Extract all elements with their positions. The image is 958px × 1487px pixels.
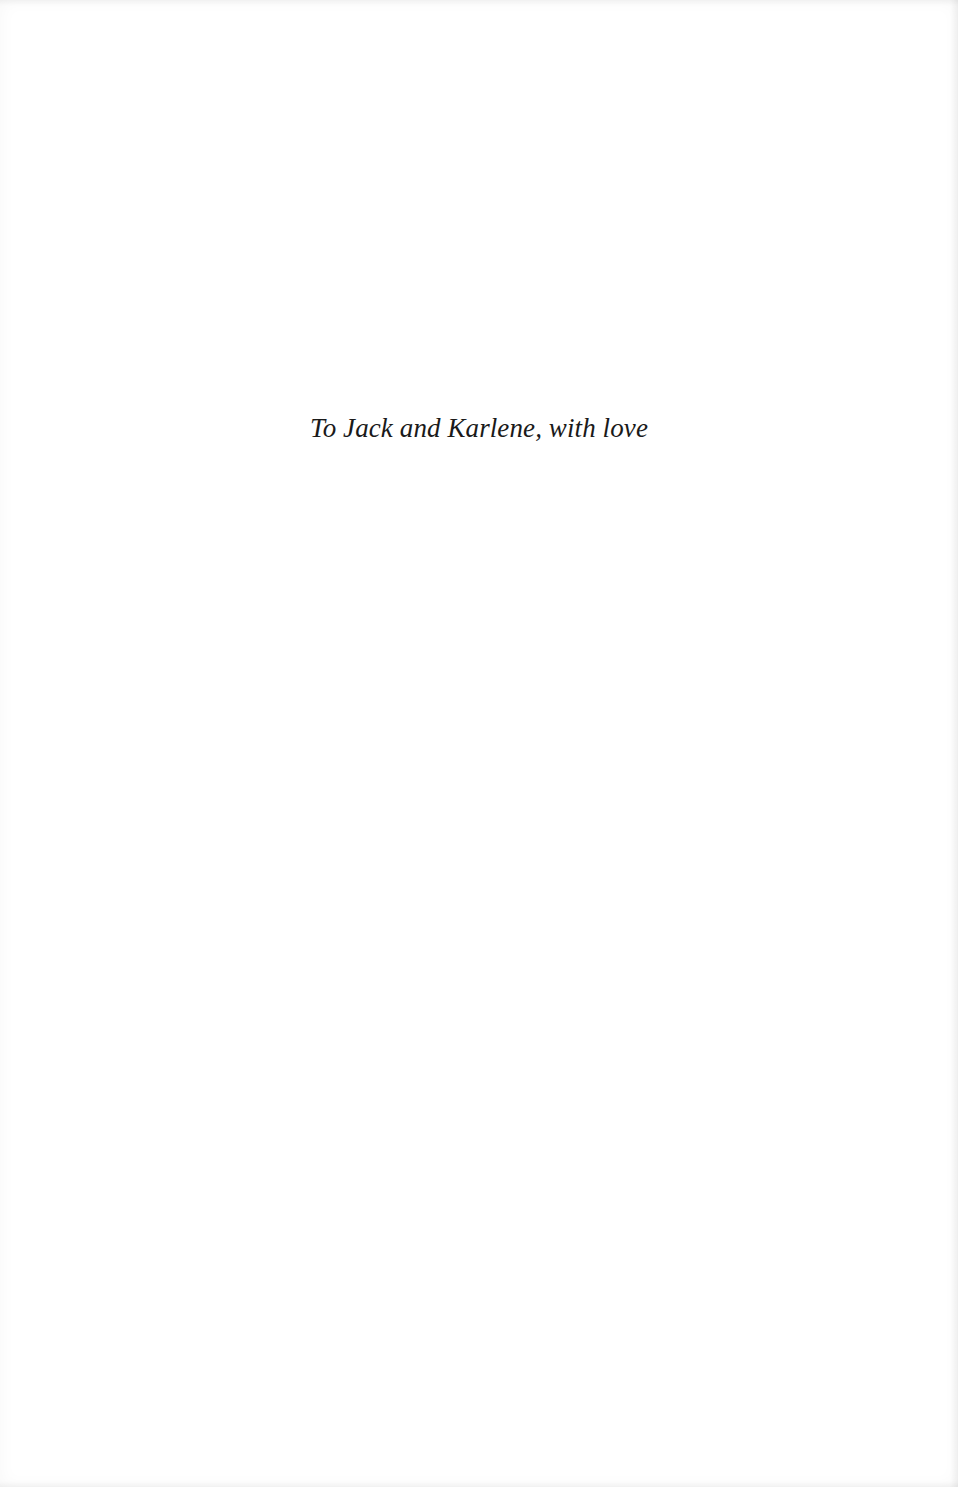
dedication-text: To Jack and Karlene, with love — [0, 411, 958, 445]
page-edge-top — [0, 0, 958, 6]
book-page: To Jack and Karlene, with love — [0, 0, 958, 1487]
page-edge-bottom — [0, 1481, 958, 1487]
page-edge-right — [950, 0, 958, 1487]
